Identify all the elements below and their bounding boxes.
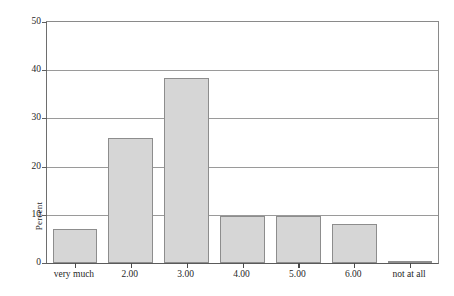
y-axis-tick-mark	[42, 263, 47, 264]
y-axis-tick-label: 20	[19, 161, 41, 171]
plot-area	[46, 21, 439, 264]
y-axis-tick-label: 10	[19, 209, 41, 219]
x-axis-tick-label: very much	[46, 268, 102, 280]
bar	[53, 229, 98, 263]
y-axis-tick-label: 0	[19, 257, 41, 267]
x-axis-tick-label: 6.00	[325, 268, 381, 280]
x-axis-tick-label: 5.00	[269, 268, 325, 280]
bar	[276, 216, 321, 263]
x-axis-tick-label: 3.00	[158, 268, 214, 280]
x-axis-tick-labels: very much2.003.004.005.006.00not at all	[46, 268, 437, 288]
bar-chart: Percent 01020304050 very much2.003.004.0…	[0, 0, 454, 296]
x-axis-tick-label: not at all	[381, 268, 437, 280]
bar	[332, 224, 377, 263]
bar	[220, 216, 265, 263]
bar	[108, 138, 153, 263]
y-axis-tick-label: 40	[19, 64, 41, 74]
y-axis-tick-labels: 01020304050	[17, 0, 41, 296]
y-axis-tick-label: 50	[19, 16, 41, 26]
x-axis-tick-label: 4.00	[214, 268, 270, 280]
x-axis-tick-label: 2.00	[102, 268, 158, 280]
y-axis-tick-label: 30	[19, 112, 41, 122]
bar	[164, 78, 209, 263]
bars-layer	[47, 22, 438, 263]
